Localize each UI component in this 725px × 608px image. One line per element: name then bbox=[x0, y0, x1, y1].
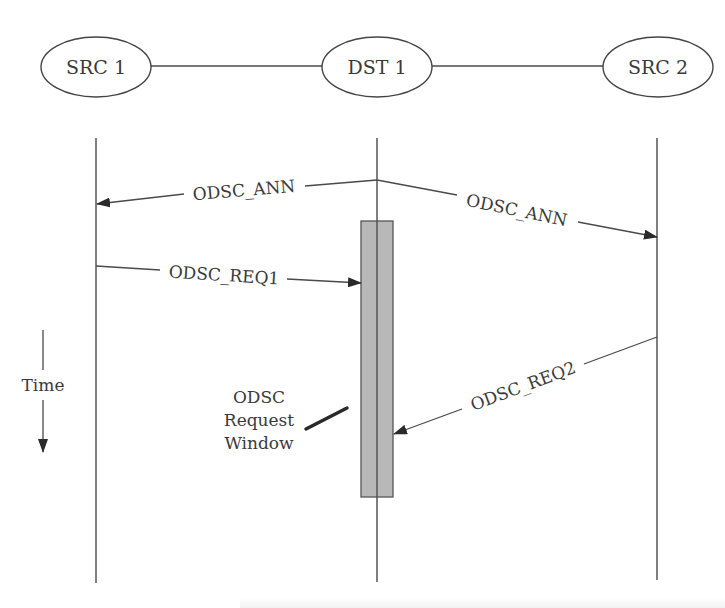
node-src1: SRC 1 bbox=[41, 37, 151, 97]
node-label: SRC 2 bbox=[628, 56, 688, 78]
message-req2: ODSC_REQ2 bbox=[394, 337, 657, 434]
message-ann-right: ODSC_ANN bbox=[377, 180, 657, 237]
request-window-annotation: ODSC Request Window bbox=[224, 387, 347, 453]
message-label: ODSC_ANN bbox=[464, 190, 569, 230]
node-label: DST 1 bbox=[347, 56, 406, 78]
node-src2: SRC 2 bbox=[603, 37, 713, 97]
message-ann-left: ODSC_ANN bbox=[97, 176, 377, 205]
node-dst1: DST 1 bbox=[322, 37, 432, 97]
time-axis: Time bbox=[22, 330, 65, 452]
message-label: ODSC_REQ1 bbox=[168, 262, 280, 289]
message-label: ODSC_ANN bbox=[192, 176, 296, 205]
time-label: Time bbox=[22, 375, 65, 395]
request-window-label-line1: ODSC bbox=[233, 387, 285, 407]
sequence-diagram: SRC 1 DST 1 SRC 2 ODSC_ANN ODSC_ANN bbox=[0, 0, 725, 608]
request-window-pointer bbox=[306, 408, 347, 429]
message-req1: ODSC_REQ1 bbox=[96, 262, 361, 289]
page-edge-shadow bbox=[240, 598, 725, 608]
request-window-label-line3: Window bbox=[224, 433, 294, 453]
message-label: ODSC_REQ2 bbox=[468, 357, 579, 414]
node-label: SRC 1 bbox=[66, 56, 126, 78]
request-window-label-line2: Request bbox=[224, 410, 294, 430]
